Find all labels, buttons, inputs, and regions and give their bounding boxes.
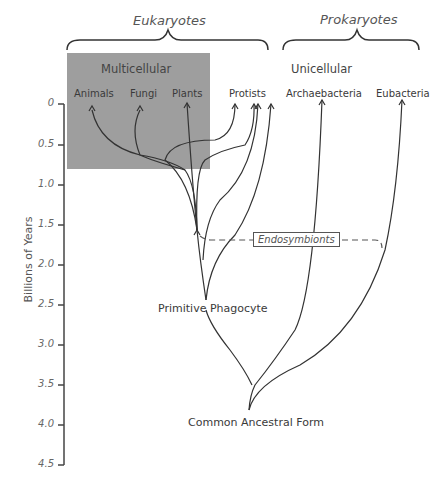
prokaryotes-label: Prokaryotes xyxy=(320,12,398,27)
taxon-eubacteria: Eubacteria xyxy=(376,88,430,99)
taxon-fungi: Fungi xyxy=(130,88,157,99)
tick-0: 0 xyxy=(24,97,54,108)
taxon-archaebacteria: Archaebacteria xyxy=(286,88,362,99)
multicellular-label: Multicellular xyxy=(101,62,171,76)
common-ancestor-label: Common Ancestral Form xyxy=(188,416,324,429)
y-axis-label: Billions of Years xyxy=(22,210,35,310)
taxon-protists: Protists xyxy=(229,88,266,99)
eukaryotes-label: Eukaryotes xyxy=(133,13,206,28)
unicellular-label: Unicellular xyxy=(291,62,352,76)
tick-0-5: 0.5 xyxy=(24,138,54,149)
tick-4-0: 4.0 xyxy=(24,418,54,429)
tick-1-0: 1.0 xyxy=(24,178,54,189)
taxon-plants: Plants xyxy=(172,88,202,99)
tick-3-5: 3.5 xyxy=(24,378,54,389)
endosymbionts-label: Endosymbionts xyxy=(253,232,340,247)
taxon-animals: Animals xyxy=(74,88,114,99)
primitive-phagocyte-label: Primitive Phagocyte xyxy=(158,302,268,315)
tick-4-5: 4.5 xyxy=(24,458,54,469)
phylogeny-lines xyxy=(0,0,447,484)
prokaryotes-brace xyxy=(283,30,419,50)
eukaryotes-brace xyxy=(67,30,268,50)
tick-3-0: 3.0 xyxy=(24,338,54,349)
